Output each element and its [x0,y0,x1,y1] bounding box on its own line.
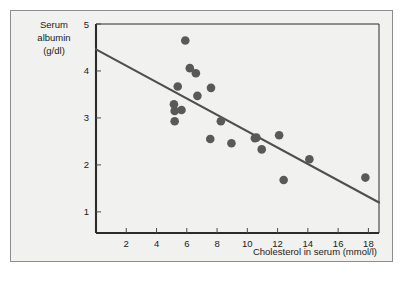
x-tick-label: 8 [214,238,219,249]
data-point [170,117,179,126]
data-point [275,131,284,140]
data-point [177,106,186,115]
data-point [279,176,288,185]
y-tick-label: 5 [84,19,89,30]
y-tick-label: 1 [84,206,89,217]
y-tick-label: 2 [84,159,89,170]
x-axis-title: Cholesterol in serum (mmol/l) [253,246,377,257]
y-axis-ticks: 12345 [84,19,101,218]
data-point [207,84,216,93]
y-axis-title-line-2: albumin [37,32,70,43]
y-axis-title-line-3: (g/dl) [43,45,65,56]
data-point [181,36,190,45]
x-tick-label: 2 [124,238,129,249]
data-point [193,92,202,101]
data-point [192,69,201,78]
x-tick-label: 6 [184,238,189,249]
data-point [252,133,261,142]
regression-line [96,49,379,202]
y-tick-label: 3 [84,112,89,123]
data-point [206,135,215,144]
data-point [257,145,266,154]
data-point [217,117,226,126]
x-tick-label: 10 [242,238,253,249]
data-point [361,173,370,182]
data-point [173,82,182,91]
x-tick-label: 4 [154,238,159,249]
figure-panel: Serum albumin (g/dl) 24681012141618 1234… [10,10,393,262]
data-point [227,139,236,148]
plot-frame-top-right [96,24,379,233]
y-tick-label: 4 [84,65,89,76]
data-point [305,155,314,164]
y-axis-title-line-1: Serum [40,19,68,30]
scatter-points [170,36,370,184]
scatter-chart: Serum albumin (g/dl) 24681012141618 1234… [11,11,392,261]
